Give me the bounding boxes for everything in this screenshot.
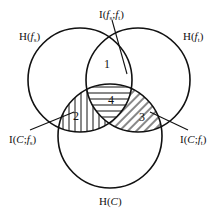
- venn-diagram: 1 2 3 4 H(fs) H(ft) H(C) I(fs;ft) I(C;fs…: [0, 0, 219, 211]
- region-label-4: 4: [108, 93, 114, 107]
- annotation-i-fs-ft: I(fs;ft): [99, 8, 124, 22]
- region-label-2: 2: [73, 109, 79, 123]
- annotation-i-c-fs: I(C;fs): [9, 133, 37, 147]
- region-label-3: 3: [139, 110, 145, 124]
- leader-i-fs-ft: [112, 20, 127, 74]
- region-label-1: 1: [104, 57, 110, 71]
- set-label-h-ft: H(ft): [183, 30, 204, 44]
- set-label-h-fs: H(fs): [19, 30, 40, 44]
- annotation-i-c-ft: I(C;ft): [180, 133, 207, 147]
- set-label-h-c: H(C): [99, 195, 122, 208]
